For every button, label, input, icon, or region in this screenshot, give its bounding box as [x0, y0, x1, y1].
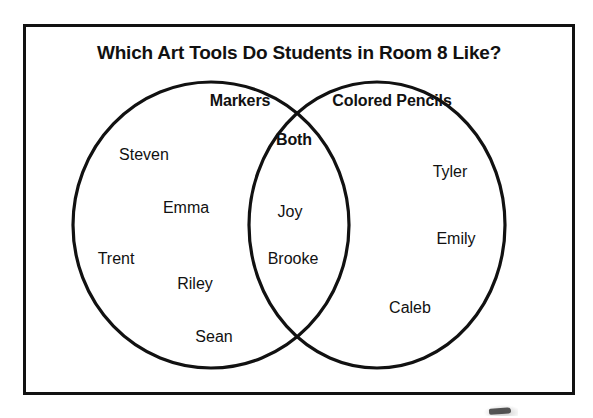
venn-member-markers-4: Riley	[177, 275, 213, 293]
venn-member-markers-2: Emma	[163, 199, 209, 217]
venn-label-colored-pencils: Colored Pencils	[332, 92, 451, 110]
venn-member-markers-1: Steven	[119, 146, 169, 164]
venn-member-colored-pencils-1: Tyler	[433, 163, 468, 181]
venn-member-both-2: Brooke	[268, 250, 319, 268]
venn-member-both-1: Joy	[278, 203, 303, 221]
venn-member-colored-pencils-3: Caleb	[389, 299, 431, 317]
worksheet-page: Which Art Tools Do Students in Room 8 Li…	[0, 0, 593, 418]
venn-circle-colored-pencils	[249, 82, 505, 368]
venn-member-markers-5: Sean	[195, 328, 232, 346]
venn-member-colored-pencils-2: Emily	[436, 230, 475, 248]
venn-label-both: Both	[276, 131, 312, 149]
venn-member-markers-3: Trent	[98, 250, 135, 268]
venn-circle-markers	[73, 82, 349, 368]
venn-label-markers: Markers	[210, 92, 271, 110]
